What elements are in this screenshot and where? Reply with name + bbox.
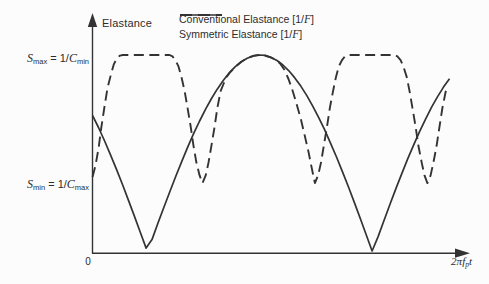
y-axis-title: Elastance: [102, 17, 152, 29]
conventional-elastance-curve: [93, 55, 450, 251]
y-axis-arrowhead: [88, 13, 97, 27]
smin-annotation: Smin = 1/Cmax: [2, 177, 89, 192]
plot-svg: [0, 0, 489, 284]
x-axis-title: 2πfpt: [426, 255, 472, 267]
smax-annotation: Smax = 1/Cmin: [2, 51, 89, 66]
origin-tick-label: 0: [80, 256, 96, 267]
legend: Conventional Elastance [1/F] Symmetric E…: [179, 12, 314, 41]
legend-label-symmetric: Symmetric Elastance [1/F]: [179, 28, 302, 40]
legend-dashed-line-swatch: [179, 12, 223, 18]
legend-item-symmetric: Symmetric Elastance [1/F]: [179, 27, 314, 41]
figure: Elastance Conventional Elastance [1/F] S…: [0, 0, 489, 284]
symmetric-elastance-curve: [93, 55, 448, 183]
